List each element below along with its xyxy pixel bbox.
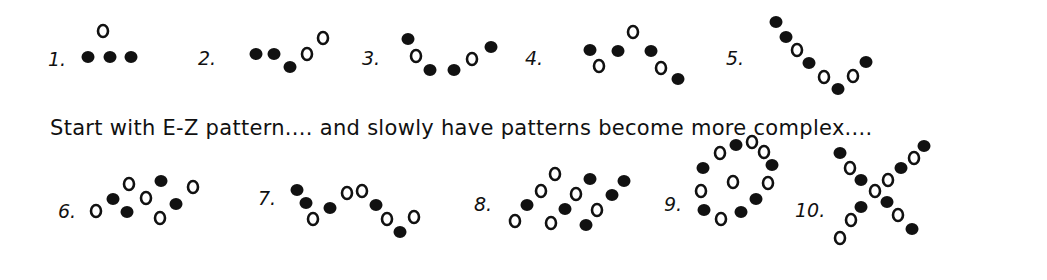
open-dot <box>883 174 893 186</box>
open-dot <box>571 188 581 200</box>
open-dot <box>909 152 919 164</box>
open-dot <box>594 60 604 72</box>
filled-dot <box>170 198 183 210</box>
open-dot <box>357 185 367 197</box>
filled-dot <box>698 204 711 216</box>
open-dot <box>467 53 477 65</box>
filled-dot <box>394 226 407 238</box>
filled-dot <box>584 44 597 56</box>
pattern-1 <box>82 25 138 63</box>
pattern-number-label: 6. <box>58 200 76 222</box>
filled-dot <box>766 159 779 171</box>
open-dot <box>302 48 312 60</box>
open-dot <box>546 217 556 229</box>
open-dot <box>819 71 829 83</box>
filled-dot <box>770 16 783 28</box>
pattern-number-label: 4. <box>525 47 543 69</box>
filled-dot <box>107 193 120 205</box>
filled-dot <box>521 199 534 211</box>
open-dot <box>409 211 419 223</box>
filled-dot <box>855 174 868 186</box>
filled-dot <box>697 162 710 174</box>
pattern-number-label: 9. <box>664 193 682 215</box>
pattern-4 <box>584 26 685 85</box>
open-dot <box>728 176 738 188</box>
open-dot <box>870 185 880 197</box>
filled-dot <box>291 184 304 196</box>
open-dot <box>763 177 773 189</box>
filled-dot <box>750 193 763 205</box>
open-dot <box>835 232 845 244</box>
filled-dot <box>906 223 919 235</box>
open-dot <box>124 178 134 190</box>
open-dot <box>592 204 602 216</box>
pattern-worksheet: 1.2.3.4.5.6.7.8.9.10. Start with E-Z pat… <box>0 0 1047 280</box>
filled-dot <box>324 202 337 214</box>
open-dot <box>715 147 725 159</box>
filled-dot <box>448 64 461 76</box>
pattern-number-label: 1. <box>48 48 66 70</box>
pattern-number-label: 3. <box>362 47 380 69</box>
open-dot <box>759 146 769 158</box>
filled-dot <box>104 51 117 63</box>
open-dot <box>98 25 108 37</box>
open-dot <box>792 44 802 56</box>
filled-dot <box>250 48 263 60</box>
open-dot <box>536 185 546 197</box>
open-dot <box>893 209 903 221</box>
open-dot <box>845 162 855 174</box>
filled-dot <box>606 189 619 201</box>
pattern-number-label: 2. <box>198 47 216 69</box>
pattern-3 <box>402 33 498 76</box>
filled-dot <box>300 197 313 209</box>
filled-dot <box>125 51 138 63</box>
filled-dot <box>82 51 95 63</box>
filled-dot <box>895 162 908 174</box>
open-dot <box>411 50 421 62</box>
pattern-number-label: 10. <box>795 199 825 221</box>
open-dot <box>141 192 151 204</box>
filled-dot <box>155 175 168 187</box>
filled-dot <box>370 199 383 211</box>
filled-dot <box>730 139 743 151</box>
open-dot <box>510 215 520 227</box>
open-dot <box>308 213 318 225</box>
open-dot <box>382 213 392 225</box>
open-dot <box>846 214 856 226</box>
pattern-8 <box>510 168 631 231</box>
filled-dot <box>424 64 437 76</box>
open-dot <box>716 213 726 225</box>
filled-dot <box>121 206 134 218</box>
pattern-2 <box>250 32 329 73</box>
filled-dot <box>645 45 658 57</box>
dot-patterns <box>0 0 1047 280</box>
filled-dot <box>402 33 415 45</box>
filled-dot <box>672 73 685 85</box>
open-dot <box>342 187 352 199</box>
filled-dot <box>584 173 597 185</box>
filled-dot <box>881 196 894 208</box>
filled-dot <box>855 201 868 213</box>
filled-dot <box>284 61 297 73</box>
filled-dot <box>860 56 873 68</box>
filled-dot <box>485 41 498 53</box>
open-dot <box>848 70 858 82</box>
open-dot <box>628 26 638 38</box>
pattern-6 <box>91 175 198 224</box>
filled-dot <box>559 203 572 215</box>
filled-dot <box>918 140 931 152</box>
pattern-number-label: 7. <box>258 187 276 209</box>
filled-dot <box>834 147 847 159</box>
pattern-number-label: 8. <box>474 193 492 215</box>
filled-dot <box>780 31 793 43</box>
open-dot <box>155 212 165 224</box>
filled-dot <box>612 45 625 57</box>
pattern-7 <box>291 184 420 238</box>
pattern-5 <box>770 16 873 95</box>
open-dot <box>188 181 198 193</box>
pattern-10 <box>834 140 931 244</box>
open-dot <box>91 205 101 217</box>
filled-dot <box>580 219 593 231</box>
pattern-number-label: 5. <box>726 47 744 69</box>
open-dot <box>696 185 706 197</box>
